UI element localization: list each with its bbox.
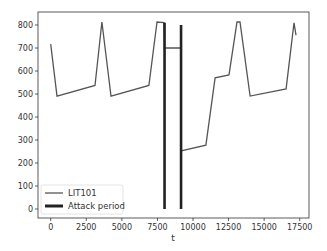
x-tick-label: 12500 xyxy=(216,223,241,232)
legend-label-lit101: LIT101 xyxy=(68,188,97,198)
x-tick-label: 0 xyxy=(48,223,53,232)
y-axis-ticks: 0100200300400500600700800 xyxy=(18,21,38,214)
y-tick-label: 800 xyxy=(18,21,33,30)
line-chart: 0100200300400500600700800 02500500075001… xyxy=(0,0,327,251)
y-tick-label: 600 xyxy=(18,67,33,76)
x-tick-label: 17500 xyxy=(287,223,312,232)
x-tick-label: 15000 xyxy=(251,223,276,232)
series-lit101 xyxy=(51,22,296,151)
y-tick-label: 700 xyxy=(18,44,33,53)
y-tick-label: 0 xyxy=(28,205,33,214)
legend: LIT101 Attack period xyxy=(41,185,125,214)
y-tick-label: 500 xyxy=(18,90,33,99)
x-axis-label: t xyxy=(171,233,175,243)
x-tick-label: 7500 xyxy=(147,223,167,232)
x-tick-label: 5000 xyxy=(112,223,132,232)
y-tick-label: 100 xyxy=(18,182,33,191)
x-tick-label: 2500 xyxy=(76,223,96,232)
x-tick-label: 10000 xyxy=(180,223,205,232)
x-axis-ticks: 025005000750010000125001500017500 xyxy=(48,218,312,232)
y-tick-label: 300 xyxy=(18,136,33,145)
y-tick-label: 200 xyxy=(18,159,33,168)
y-tick-label: 400 xyxy=(18,113,33,122)
legend-label-attack: Attack period xyxy=(68,201,125,211)
series-layer xyxy=(51,22,296,209)
